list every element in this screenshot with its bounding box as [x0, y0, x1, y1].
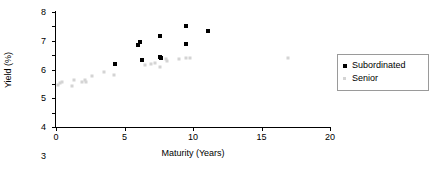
- plot-area: 01234567805101520: [56, 12, 330, 127]
- data-point-senior: [144, 64, 147, 67]
- y-axis-tick: 5: [52, 55, 56, 56]
- data-point-senior: [90, 74, 93, 77]
- data-point-subordinated: [158, 34, 162, 38]
- data-point-subordinated: [184, 42, 188, 46]
- y-axis-tick: 7: [52, 26, 56, 27]
- y-axis-tick-label: 6: [41, 65, 46, 74]
- data-point-subordinated: [184, 24, 188, 28]
- data-point-senior: [71, 85, 74, 88]
- x-axis-tick-label: 0: [53, 133, 58, 142]
- y-axis-tick-label: 7: [41, 36, 46, 45]
- data-point-senior: [102, 70, 105, 73]
- x-axis-tick-label: 10: [188, 133, 198, 142]
- legend-swatch-subordinated-icon: [343, 64, 347, 68]
- data-point-senior: [112, 74, 115, 77]
- y-axis-tick: 8: [52, 12, 56, 13]
- x-axis-tick: [193, 127, 194, 131]
- data-point-subordinated: [159, 56, 163, 60]
- data-point-senior: [149, 62, 152, 65]
- x-axis-tick: [125, 127, 126, 131]
- x-axis-tick: [56, 127, 57, 131]
- x-axis-tick-label: 5: [122, 133, 127, 142]
- data-point-senior: [159, 65, 162, 68]
- x-axis-tick: [330, 127, 331, 131]
- data-point-subordinated: [140, 58, 144, 62]
- y-axis-tick: 6: [52, 41, 56, 42]
- y-axis-title: Yield (%): [3, 52, 13, 88]
- legend-item-subordinated[interactable]: Subordinated: [343, 59, 423, 72]
- data-point-senior: [72, 78, 75, 81]
- legend-label-subordinated: Subordinated: [352, 61, 406, 70]
- y-axis-tick-label: 4: [41, 123, 46, 132]
- chart-legend: Subordinated Senior: [337, 54, 429, 91]
- data-point-subordinated: [113, 62, 117, 66]
- y-axis-tick: 2: [52, 98, 56, 99]
- data-point-senior: [189, 57, 192, 60]
- data-point-subordinated: [138, 40, 142, 44]
- x-axis-tick: [262, 127, 263, 131]
- y-axis-tick: 3: [52, 84, 56, 85]
- scatter-chart-figure: Yield (%) Maturity (Years) 0123456780510…: [0, 0, 441, 170]
- x-axis-tick-label: 20: [325, 133, 335, 142]
- data-point-senior: [61, 81, 64, 84]
- y-axis-tick-label: 5: [41, 94, 46, 103]
- data-point-senior: [165, 59, 168, 62]
- data-point-senior: [286, 57, 289, 60]
- data-point-senior: [185, 57, 188, 60]
- data-point-senior: [85, 81, 88, 84]
- y-axis-tick: 1: [52, 113, 56, 114]
- data-point-senior: [178, 57, 181, 60]
- y-axis-tick-label: 3: [41, 151, 46, 160]
- legend-label-senior: Senior: [352, 74, 378, 83]
- data-point-senior: [153, 62, 156, 65]
- y-axis-tick: 4: [52, 70, 56, 71]
- y-axis-tick-label: 8: [41, 8, 46, 17]
- data-point-subordinated: [206, 29, 210, 33]
- x-axis-tick-label: 15: [256, 133, 266, 142]
- x-axis-title: Maturity (Years): [161, 148, 224, 158]
- legend-swatch-senior-icon: [343, 77, 346, 80]
- legend-item-senior[interactable]: Senior: [343, 72, 423, 85]
